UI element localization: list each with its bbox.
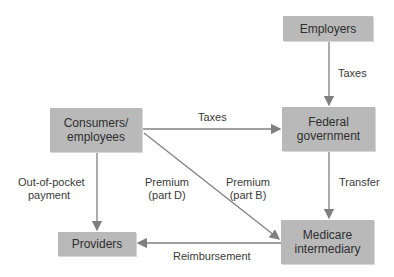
label-premium-part-d: Premium (part D): [145, 176, 189, 202]
node-providers: Providers: [58, 232, 136, 256]
label-out-of-pocket: Out-of-pocket payment: [18, 176, 80, 202]
node-medicare-label: Medicare intermediary: [288, 228, 368, 256]
node-consumers: Consumers/ employees: [50, 108, 142, 152]
node-medicare-intermediary: Medicare intermediary: [281, 220, 374, 264]
label-taxes-consumers: Taxes: [198, 111, 227, 124]
node-employers: Employers: [283, 16, 373, 41]
label-reimbursement: Reimbursement: [173, 250, 251, 263]
label-transfer: Transfer: [339, 176, 380, 189]
node-providers-label: Providers: [72, 237, 123, 251]
label-taxes-employers: Taxes: [338, 67, 367, 80]
node-federal-government: Federal government: [282, 107, 375, 151]
node-consumers-label: Consumers/ employees: [61, 116, 131, 144]
node-employers-label: Employers: [300, 22, 357, 36]
node-federal-label: Federal government: [294, 115, 364, 143]
label-premium-part-b: Premium (part B): [226, 176, 270, 202]
